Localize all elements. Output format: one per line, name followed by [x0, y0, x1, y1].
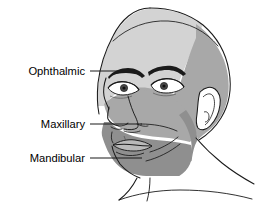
label-maxillary: Maxillary [41, 118, 86, 130]
label-ophthalmic: Ophthalmic [28, 65, 85, 77]
trigeminal-nerve-diagram: Ophthalmic Maxillary Mandibular [0, 0, 268, 209]
label-mandibular: Mandibular [30, 152, 86, 164]
